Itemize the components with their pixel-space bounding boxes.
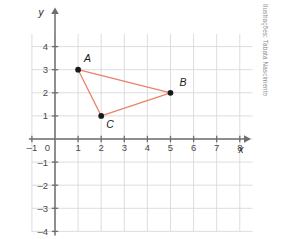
y-axis-arrowhead (51, 8, 59, 15)
y-tick-label: 1 (43, 110, 48, 121)
axis-name-labels: xy (38, 7, 245, 155)
coordinate-plane-svg: –1012345678–4–3–2–11234 ABC xy (0, 0, 285, 239)
plot-area: –1012345678–4–3–2–11234 ABC xy (0, 0, 285, 239)
x-tick-label: 1 (75, 142, 80, 153)
grid-lines (32, 34, 253, 232)
y-tick-label: –2 (37, 180, 48, 191)
point-label-c: C (106, 118, 114, 130)
y-tick-label: –3 (37, 203, 48, 214)
y-axis-label: y (38, 7, 45, 18)
y-tick-label: 3 (43, 64, 48, 75)
data-point-a (75, 67, 81, 73)
x-tick-label: –1 (27, 142, 38, 153)
x-axis-arrowhead (244, 135, 251, 143)
data-point-b (168, 90, 174, 96)
y-tick-label: –1 (37, 157, 48, 168)
x-tick-label: 4 (145, 142, 150, 153)
data-point-c (98, 113, 104, 119)
illustration-credit: Ilustrações: Tabata Nascimento (262, 4, 269, 124)
axes (29, 8, 251, 236)
point-label-b: B (180, 76, 187, 88)
x-tick-label: 2 (99, 142, 104, 153)
x-tick-label: 6 (191, 142, 196, 153)
x-tick-label: 5 (168, 142, 173, 153)
point-label-a: A (83, 52, 91, 64)
x-tick-label: 7 (214, 142, 219, 153)
coordinate-plane-figure: –1012345678–4–3–2–11234 ABC xy Ilustraçõ… (0, 0, 285, 239)
y-tick-label: –4 (37, 226, 48, 237)
y-tick-label: 4 (43, 41, 48, 52)
x-axis-label: x (238, 144, 245, 155)
x-tick-label-origin: 0 (45, 142, 50, 153)
y-tick-label: 2 (43, 87, 48, 98)
x-tick-label: 3 (122, 142, 127, 153)
